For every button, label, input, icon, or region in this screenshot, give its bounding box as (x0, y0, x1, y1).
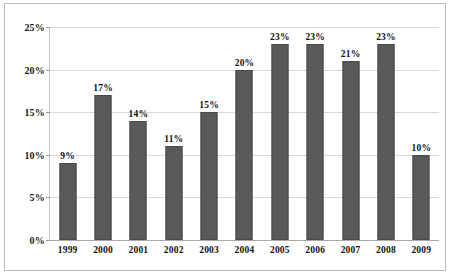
bar-value-label-2003: 15% (199, 100, 219, 110)
bar-group-2003[interactable]: 15%2003 (191, 27, 226, 240)
y-axis-tick-label: 20% (24, 64, 45, 75)
bar-value-label-2008: 23% (376, 32, 396, 42)
y-axis-tick-label: 0% (30, 235, 45, 246)
bar-2005[interactable] (271, 44, 288, 240)
x-axis-category-label-2007: 2007 (341, 245, 361, 255)
bar-2006[interactable] (307, 44, 324, 240)
bars-layer: 9%199917%200014%200111%200215%200320%200… (50, 27, 439, 240)
gridline-0pct (50, 240, 439, 241)
y-axis-tick-label: 10% (24, 149, 45, 160)
x-axis-category-label-2002: 2002 (164, 245, 184, 255)
x-axis-category-label-2003: 2003 (199, 245, 219, 255)
x-axis-category-label-1999: 1999 (58, 245, 78, 255)
bar-2002[interactable] (165, 146, 182, 240)
x-axis-category-label-2009: 2009 (411, 245, 431, 255)
x-axis-category-label-2000: 2000 (93, 245, 113, 255)
bar-value-label-1999: 9% (60, 151, 75, 161)
bar-group-2007[interactable]: 21%2007 (333, 27, 368, 240)
bar-value-label-2005: 23% (270, 32, 290, 42)
bar-2000[interactable] (95, 95, 112, 240)
chart-frame: 0%5%10%15%20%25% 9%199917%200014%200111%… (4, 3, 446, 271)
bar-group-2006[interactable]: 23%2006 (298, 27, 333, 240)
bar-2004[interactable] (236, 70, 253, 240)
x-axis-category-label-2008: 2008 (376, 245, 396, 255)
bar-value-label-2004: 20% (235, 58, 255, 68)
plot-area: 0%5%10%15%20%25% 9%199917%200014%200111%… (49, 27, 439, 241)
bar-group-2008[interactable]: 23%2008 (368, 27, 403, 240)
bar-2007[interactable] (342, 61, 359, 240)
y-tick-mark (46, 240, 50, 241)
bar-group-2005[interactable]: 23%2005 (262, 27, 297, 240)
bar-group-2009[interactable]: 10%2009 (404, 27, 439, 240)
bar-group-2000[interactable]: 17%2000 (85, 27, 120, 240)
y-axis-tick-label: 25% (24, 22, 45, 33)
bar-value-label-2009: 10% (411, 143, 431, 153)
bar-2009[interactable] (413, 155, 430, 240)
bar-group-2002[interactable]: 11%2002 (156, 27, 191, 240)
bar-2008[interactable] (377, 44, 394, 240)
x-axis-category-label-2006: 2006 (305, 245, 325, 255)
bar-group-1999[interactable]: 9%1999 (50, 27, 85, 240)
bar-value-label-2007: 21% (341, 49, 361, 59)
bar-2001[interactable] (130, 121, 147, 240)
bar-value-label-2000: 17% (93, 83, 113, 93)
x-axis-category-label-2001: 2001 (128, 245, 148, 255)
bar-value-label-2001: 14% (129, 109, 149, 119)
x-axis-category-label-2004: 2004 (235, 245, 255, 255)
bar-2003[interactable] (201, 112, 218, 240)
bar-group-2001[interactable]: 14%2001 (121, 27, 156, 240)
y-axis-tick-label: 15% (24, 107, 45, 118)
x-axis-category-label-2005: 2005 (270, 245, 290, 255)
bar-value-label-2006: 23% (305, 32, 325, 42)
bar-group-2004[interactable]: 20%2004 (227, 27, 262, 240)
bar-1999[interactable] (59, 163, 76, 240)
bar-value-label-2002: 11% (164, 134, 183, 144)
y-axis-tick-label: 5% (30, 192, 45, 203)
